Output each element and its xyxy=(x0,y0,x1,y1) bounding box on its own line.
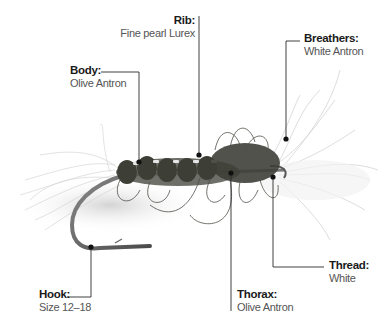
rib-value: Fine pearl Lurex xyxy=(95,27,195,40)
breathers-value: White Antron xyxy=(304,45,363,58)
thread-value: White xyxy=(329,272,369,285)
thorax-label: Thorax: Olive Antron xyxy=(237,288,293,314)
hook-label: Hook: Size 12–18 xyxy=(39,288,91,314)
fly-anatomy-diagram: Rib: Fine pearl Lurex Body: Olive Antron… xyxy=(0,0,386,327)
breathers-leader xyxy=(286,41,300,139)
breathers-label: Breathers: White Antron xyxy=(304,32,363,58)
thread-label: Thread: White xyxy=(329,259,369,285)
rib-label: Rib: Fine pearl Lurex xyxy=(95,14,195,40)
rib-title: Rib: xyxy=(95,14,195,27)
hook-value: Size 12–18 xyxy=(39,301,91,314)
thorax-value: Olive Antron xyxy=(237,301,293,314)
breathers-title: Breathers: xyxy=(304,32,363,45)
body-value: Olive Antron xyxy=(70,77,126,90)
body-title: Body: xyxy=(70,64,126,77)
thorax-title: Thorax: xyxy=(237,288,293,301)
thread-title: Thread: xyxy=(329,259,369,272)
hook-title: Hook: xyxy=(39,288,91,301)
breather-fibres xyxy=(260,70,378,240)
body-label: Body: Olive Antron xyxy=(70,64,126,90)
